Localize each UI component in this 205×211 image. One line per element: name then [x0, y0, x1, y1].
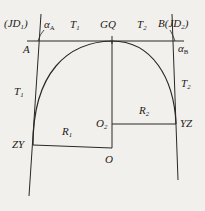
label-t2-right: T2 — [181, 78, 191, 89]
label-t2-top: T2 — [137, 19, 147, 30]
label-r1-subscript: 1 — [69, 131, 72, 138]
alpha-a-angle-arc — [38, 30, 44, 41]
curve-diagram-svg — [0, 0, 205, 211]
label-b-jd2: B(JD2) — [158, 18, 188, 29]
label-o-text: O — [105, 153, 113, 165]
label-b-jd2-close: ) — [185, 17, 189, 29]
label-jd1-text: (JD — [4, 17, 21, 29]
label-t1-left: T1 — [14, 86, 24, 97]
label-alpha-b-subscript: B — [184, 48, 189, 55]
label-yz: YZ — [180, 118, 192, 129]
label-t1-top-subscript: 1 — [76, 24, 79, 31]
label-alpha-b: αB — [178, 43, 188, 54]
label-point-a: A — [23, 44, 30, 55]
label-t1-left-subscript: 1 — [20, 91, 23, 98]
label-r2-symbol: R — [139, 104, 146, 116]
label-o2: O2 — [96, 118, 107, 129]
label-o: O — [105, 154, 113, 165]
label-zy: ZY — [12, 139, 24, 150]
label-t2-top-subscript: 2 — [143, 24, 146, 31]
label-gq: GQ — [100, 19, 116, 30]
label-r2-subscript: 2 — [146, 110, 149, 117]
radius-1-line — [33, 145, 112, 148]
label-t2-right-subscript: 2 — [187, 83, 190, 90]
label-alpha-a-symbol: α — [44, 18, 50, 30]
diagram-canvas: (JD1) αA T1 GQ T2 B(JD2) αB A T1 T2 R2 O… — [0, 0, 205, 211]
label-o2-symbol: O — [96, 117, 104, 129]
label-point-a-text: A — [23, 43, 30, 55]
label-alpha-b-symbol: α — [178, 42, 184, 54]
label-b-jd2-subscript: 2 — [181, 23, 184, 30]
label-alpha-a-subscript: A — [50, 24, 55, 31]
label-r1-symbol: R — [62, 125, 69, 137]
label-o2-subscript: 2 — [104, 123, 107, 130]
label-gq-text: GQ — [100, 18, 116, 30]
label-r1: R1 — [62, 126, 72, 137]
label-b-jd2-text: B(JD — [158, 17, 181, 29]
label-yz-text: YZ — [180, 117, 192, 129]
label-t1-top: T1 — [70, 19, 80, 30]
label-jd1-subscript: 1 — [21, 23, 24, 30]
label-r2: R2 — [139, 105, 149, 116]
label-jd1: (JD1) — [4, 18, 28, 29]
label-alpha-a: αA — [44, 19, 55, 30]
label-jd1-close: ) — [24, 17, 28, 29]
label-zy-text: ZY — [12, 138, 24, 150]
